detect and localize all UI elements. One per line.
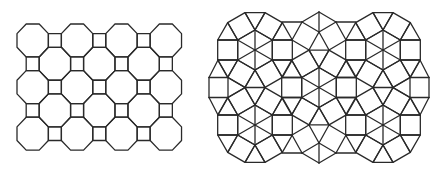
triangle-tile [309, 108, 329, 125]
triangle-spoke [366, 125, 383, 135]
square-tile [383, 60, 410, 87]
gap-tile-edge [329, 125, 346, 135]
square-tile [71, 57, 84, 71]
square-tile [255, 60, 282, 87]
square-tile [319, 50, 346, 77]
square-tile [292, 98, 319, 125]
gap-tile-edge [319, 143, 336, 153]
square-tile [336, 78, 356, 98]
triangle-tile [336, 98, 356, 115]
gap-tile-edge [319, 22, 336, 32]
square-tile [26, 57, 39, 71]
triangle-spoke [238, 40, 255, 50]
gap-tile-edge [218, 60, 228, 78]
gap-tile-edge [420, 98, 429, 116]
triangle-tile [400, 60, 420, 77]
gap-tile-edge [228, 78, 245, 88]
triangle-tile [272, 60, 292, 77]
square-tile [228, 60, 255, 87]
gap-tile-edge [319, 153, 336, 163]
square-tile [48, 34, 61, 48]
triangle-tile [400, 98, 420, 115]
square-tile [255, 13, 282, 40]
triangle-spoke [255, 115, 272, 125]
triangle-tile [346, 135, 366, 152]
triangle-spoke [366, 40, 383, 50]
triangle-spoke [383, 40, 400, 50]
square-tile [400, 40, 420, 60]
gap-tile-edge [319, 12, 336, 22]
square-tile [137, 34, 150, 48]
square-tile [383, 88, 410, 115]
gap-tile-edge [309, 125, 319, 143]
gap-tile-edge [302, 22, 319, 32]
square-tile [137, 127, 150, 141]
triangle-tile [245, 70, 265, 87]
triangle-tile [245, 13, 265, 30]
triangle-spoke [302, 88, 319, 98]
square-tile [383, 13, 410, 40]
square-tile [228, 88, 255, 115]
gap-tile-edge [292, 22, 302, 40]
gap-tile-edge [309, 32, 319, 50]
gap-tile-edge [292, 40, 309, 50]
triangle-tile [346, 98, 366, 115]
square-tile [255, 88, 282, 115]
triangle-tile [218, 60, 238, 77]
gap-tile-edge [292, 125, 309, 135]
square-tile [159, 104, 172, 118]
triangle-spoke [255, 125, 272, 135]
octagon-tile [61, 117, 92, 150]
triangle-tile [245, 88, 265, 105]
triangle-tile [272, 23, 292, 40]
triangle-tile [272, 135, 292, 152]
square-tile [272, 115, 292, 135]
gap-tile-edge [393, 78, 410, 88]
square-tile [400, 115, 420, 135]
square-tile [383, 135, 410, 162]
triangle-tile [373, 145, 393, 162]
gap-tile-edge [209, 60, 218, 78]
triangle-spoke [302, 78, 319, 88]
octagon-tile [150, 117, 181, 150]
square-tile [71, 104, 84, 118]
square-tile [115, 104, 128, 118]
square-tile [356, 13, 383, 40]
triangle-spoke [255, 50, 272, 60]
octagon-tile [17, 117, 48, 150]
square-tile [272, 40, 292, 60]
triangle-spoke [366, 50, 383, 60]
triangle-tile [282, 98, 302, 115]
tiling-figure [0, 0, 441, 173]
square-tile [159, 57, 172, 71]
square-tile [292, 50, 319, 77]
square-tile [346, 115, 366, 135]
gap-tile-edge [319, 125, 329, 143]
triangle-tile [309, 50, 329, 67]
gap-tile-edge [209, 98, 218, 116]
gap-tile-edge [410, 98, 420, 116]
triangle-spoke [238, 115, 255, 125]
triangle-tile [218, 135, 238, 152]
triangle-tile [400, 23, 420, 40]
triangle-tile [346, 60, 366, 77]
gap-tile-edge [420, 60, 429, 78]
square-tile [115, 57, 128, 71]
triangle-spoke [383, 50, 400, 60]
gap-tile-edge [336, 22, 346, 40]
square-triangle-tiling-panel [209, 12, 429, 163]
triangle-tile [373, 13, 393, 30]
gap-tile-edge [336, 135, 346, 153]
triangle-spoke [319, 88, 336, 98]
triangle-tile [282, 60, 302, 77]
triangle-tile [346, 23, 366, 40]
gap-tile-edge [228, 88, 245, 98]
triangle-spoke [238, 125, 255, 135]
triangle-spoke [366, 115, 383, 125]
triangle-tile [336, 60, 356, 77]
square-tile [93, 80, 106, 94]
square-tile [218, 40, 238, 60]
square-tile [356, 60, 383, 87]
square-tile [48, 80, 61, 94]
triangle-spoke [383, 125, 400, 135]
